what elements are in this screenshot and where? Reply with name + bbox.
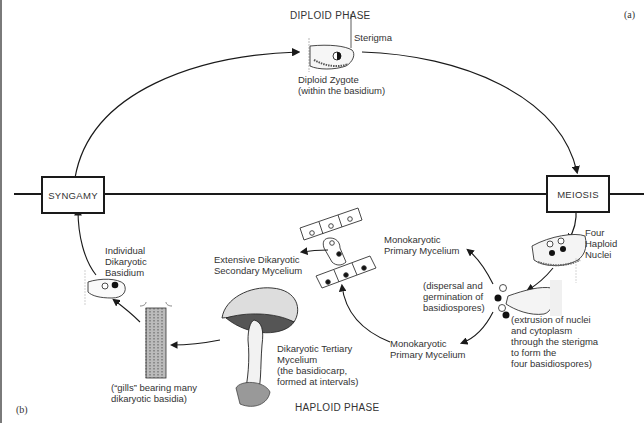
extrusion-label: (extrusion of nuclei and cytoplasm throu… xyxy=(511,314,598,369)
arrow-gills-to-basidium xyxy=(114,300,140,322)
tertiary-mycelium-label: Dikaryotic Tertiary Mycelium (the basidi… xyxy=(277,343,358,387)
gills-illustration xyxy=(140,302,172,378)
panel-a-marker: (a) xyxy=(624,9,635,20)
arrow-spores-to-mono-bottom xyxy=(462,312,493,343)
life-cycle-diagram: SYNGAMY MEIOSIS DIPLOID PHASE HAPLOID PH… xyxy=(0,0,644,423)
arrow-syngamy-to-zygote xyxy=(75,52,298,178)
syngamy-label: SYNGAMY xyxy=(48,190,98,201)
arrow-nuclei-to-spores xyxy=(528,268,553,290)
diploid-zygote-label: Diploid Zygote (within the basidium) xyxy=(298,74,385,96)
dispersal-label: (dispersal and germination of basidiospo… xyxy=(423,280,485,313)
arrow-zygote-to-meiosis xyxy=(362,52,577,172)
basidiospores-illustration xyxy=(495,280,563,319)
arrow-spores-to-mono-top xyxy=(468,250,493,284)
four-nuclei-basidium-illustration xyxy=(532,234,586,283)
syngamy-box: SYNGAMY xyxy=(41,176,105,214)
haploid-phase-label: HAPLOID PHASE xyxy=(295,402,379,413)
hyphal-fusion-illustration xyxy=(300,208,376,288)
diploid-phase-label: DIPLOID PHASE xyxy=(290,10,371,21)
diploid-zygote-illustration xyxy=(309,14,354,72)
four-haploid-nuclei-label: Four Haploid Nuclei xyxy=(585,227,617,260)
arrow-mono-to-hyphae xyxy=(342,286,390,342)
arrow-basidium-to-syngamy xyxy=(78,210,96,275)
mono-primary-top-label: Monokaryotic Primary Mycelium xyxy=(384,234,459,256)
arrow-hyphae-to-secondary xyxy=(302,250,328,252)
panel-b-marker: (b) xyxy=(16,404,28,415)
gills-label: (“gills” bearing many dikaryotic basidia… xyxy=(111,382,197,404)
arrow-mushroom-to-gills xyxy=(172,340,220,345)
meiosis-label: MEIOSIS xyxy=(557,189,599,200)
mono-primary-bottom-label: Monokaryotic Primary Mycelium xyxy=(390,338,465,360)
secondary-mycelium-label: Extensive Dikaryotic Secondary Mycelium xyxy=(214,254,302,276)
sterigma-label: Sterigma xyxy=(354,32,392,43)
individual-basidium-label: Individual Dikaryotic Basidium xyxy=(105,245,147,278)
meiosis-box: MEIOSIS xyxy=(546,175,610,213)
